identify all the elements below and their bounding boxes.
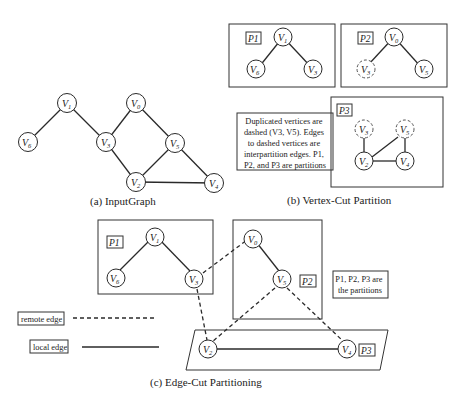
vertex-v3: V3 <box>185 270 203 288</box>
panel-c-edge-cut: P1 P2 P3 V1 V6 V3 V0 V5 V2 V4 P1, P2, P3… <box>18 220 388 389</box>
vertex-v6: V6 <box>19 133 38 152</box>
partition-label-p2: P2 <box>301 277 313 287</box>
partition-label-p2: P2 <box>359 34 371 44</box>
vertex-v5: V5 <box>166 134 185 153</box>
legend-local-edge-label: local edge <box>33 343 67 352</box>
vertex-v0: V0 <box>385 28 403 46</box>
caption-c: (c) Edge-Cut Partitioning <box>150 376 262 389</box>
vertex-v4: V4 <box>205 174 224 193</box>
diagram-canvas: V1 V6 V3 V0 V5 V2 V4 (a) InputGraph P1 V… <box>0 0 467 398</box>
caption-a: (a) InputGraph <box>90 195 156 208</box>
vertex-v3: V3 <box>304 60 322 78</box>
vertex-v4: V4 <box>396 152 414 170</box>
vertex-v4: V4 <box>338 340 356 358</box>
vertex-v3-duplicate: V3 <box>357 60 375 78</box>
vertex-v2: V2 <box>199 340 217 358</box>
partition-label-p3: P3 <box>338 106 350 116</box>
vertex-cut-note: Duplicated vertices are dashed (V3, V5).… <box>244 117 326 170</box>
vertex-v2: V2 <box>355 152 373 170</box>
partition-label-p3: P3 <box>360 346 372 356</box>
panel-a-input-graph: V1 V6 V3 V0 V5 V2 V4 (a) InputGraph <box>19 94 224 209</box>
vertex-v5: V5 <box>273 270 291 288</box>
vertex-v3-duplicate: V3 <box>355 120 373 138</box>
vertex-v2: V2 <box>127 173 146 192</box>
vertex-v1: V1 <box>146 228 164 246</box>
legend-remote-edge-label: remote edge <box>21 315 62 324</box>
vertex-v0: V0 <box>244 230 262 248</box>
edge-cut-note: P1, P2, P3 are the partitions <box>335 275 384 295</box>
vertex-v3: V3 <box>97 133 116 152</box>
vertex-v5-duplicate: V5 <box>396 120 414 138</box>
caption-b: (b) Vertex-Cut Partition <box>287 194 392 207</box>
vertex-v6: V6 <box>107 269 125 287</box>
vertex-v1: V1 <box>58 94 77 113</box>
vertex-v1: V1 <box>274 28 292 46</box>
vertex-v5: V5 <box>415 60 433 78</box>
vertex-v0: V0 <box>127 94 146 113</box>
vertex-v6: V6 <box>247 60 265 78</box>
panel-b-vertex-cut: P1 V1 V6 V3 P2 V0 V3 V5 Duplicated verti… <box>229 24 447 207</box>
partition-label-p1: P1 <box>108 238 120 248</box>
partition-label-p1: P1 <box>247 34 259 44</box>
